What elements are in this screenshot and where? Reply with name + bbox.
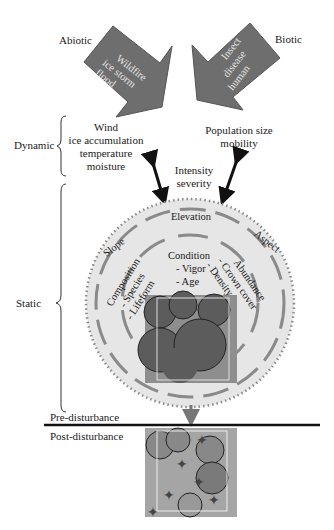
dynamic-biotic-item: mobility (203, 137, 275, 150)
dynamic-abiotic-item: moisture (66, 160, 146, 173)
static-brace (56, 184, 66, 412)
dynamic-abiotic-item: Wind (66, 121, 146, 134)
svg-text:✦: ✦ (176, 456, 188, 472)
intensity-text: Intensity (170, 164, 218, 177)
condition-title: Condition (168, 250, 211, 261)
dynamic-biotic-list: Population size mobility (203, 124, 275, 150)
dynamic-brace (57, 116, 66, 176)
dynamic-abiotic-list: Wind ice accumulation temperature moistu… (66, 121, 146, 173)
svg-text:✦: ✦ (163, 487, 175, 503)
severity-text: severity (170, 177, 218, 190)
svg-text:✦: ✦ (196, 432, 208, 448)
svg-text:✦: ✦ (208, 492, 220, 508)
diagram-canvas: ✦ ✦ ✦ ✦ ✦ ✦ Wildfire ice storm flood Ins… (0, 0, 334, 530)
dynamic-abiotic-item: ice accumulation (66, 134, 146, 147)
dynamic-label: Dynamic (14, 139, 54, 152)
interaction-label: Intensity severity (170, 164, 218, 190)
post-disturbance-canopy-image: ✦ ✦ ✦ ✦ ✦ ✦ (145, 428, 237, 520)
svg-text:✦: ✦ (193, 474, 205, 490)
condition-item: - Age (176, 276, 199, 287)
abiotic-double-arrow (152, 160, 163, 197)
dynamic-biotic-item: Population size (203, 124, 275, 137)
elevation-label: Elevation (171, 211, 212, 222)
biotic-double-arrow (224, 157, 238, 197)
pre-disturbance-label: Pre-disturbance (50, 411, 119, 424)
biotic-label: Biotic (275, 33, 302, 46)
dynamic-abiotic-item: temperature (66, 147, 146, 160)
abiotic-label: Abiotic (59, 34, 92, 47)
condition-item: - Vigor (176, 263, 206, 274)
post-disturbance-label: Post-disturbance (50, 430, 123, 443)
static-label: Static (16, 297, 41, 310)
pre-disturbance-canopy-image (138, 291, 237, 383)
